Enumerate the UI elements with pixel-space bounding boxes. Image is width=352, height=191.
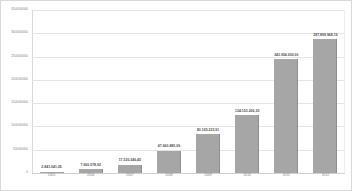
bar-value-label: 124.103.206,30	[235, 110, 259, 113]
y-tick-label: 300000000	[11, 32, 28, 35]
bar[interactable]	[274, 59, 298, 173]
bar-group: 83.165.223,91	[189, 10, 228, 173]
bar-chart: 0500000001000000001500000002000000002500…	[0, 0, 352, 191]
bar-value-label: 47.660.885,09	[158, 145, 180, 148]
x-tick-label: 2012	[322, 174, 330, 177]
x-tick-label: 2009	[204, 174, 212, 177]
bar-value-label: 83.165.223,91	[197, 129, 219, 132]
x-tick-label: 2006	[87, 174, 95, 177]
y-tick-label: 50000000	[13, 148, 28, 151]
bar[interactable]	[118, 165, 142, 173]
y-tick-label: 350000000	[11, 8, 28, 11]
y-tick-label: 250000000	[11, 55, 28, 58]
y-axis: 0500000001000000001500000002000000002500…	[1, 10, 30, 173]
bar-group: 124.103.206,30	[228, 10, 267, 173]
plot-area: 2.841.041,057.600.578,9217.530.346,4547.…	[32, 10, 345, 173]
y-tick-label: 150000000	[11, 102, 28, 105]
bar[interactable]	[235, 115, 259, 173]
bar[interactable]	[196, 134, 220, 173]
bar-value-label: 287.899.968,16	[313, 34, 337, 37]
x-tick-label: 2005	[48, 174, 56, 177]
bar-value-label: 243.954.000,00	[274, 54, 298, 57]
bar-group: 287.899.968,16	[306, 10, 345, 173]
y-tick-label: 0	[26, 171, 28, 174]
bar-group: 7.600.578,92	[71, 10, 110, 173]
x-tick-label: 2010	[243, 174, 251, 177]
bar-series: 2.841.041,057.600.578,9217.530.346,4547.…	[32, 10, 345, 173]
bar-group: 47.660.885,09	[149, 10, 188, 173]
x-axis: 20052006200720082009201020112012	[32, 174, 345, 184]
y-tick-label: 200000000	[11, 78, 28, 81]
bar-value-label: 17.530.346,45	[119, 159, 141, 162]
bar-group: 243.954.000,00	[267, 10, 306, 173]
y-tick-label: 100000000	[11, 125, 28, 128]
x-tick-label: 2008	[165, 174, 173, 177]
bar-value-label: 7.600.578,92	[80, 164, 100, 167]
bar[interactable]	[157, 151, 181, 173]
bar-group: 2.841.041,05	[32, 10, 71, 173]
bar-value-label: 2.841.041,05	[41, 166, 61, 169]
x-tick-label: 2011	[283, 174, 290, 177]
bar-group: 17.530.346,45	[110, 10, 149, 173]
x-tick-label: 2007	[126, 174, 134, 177]
bar[interactable]	[313, 39, 337, 173]
